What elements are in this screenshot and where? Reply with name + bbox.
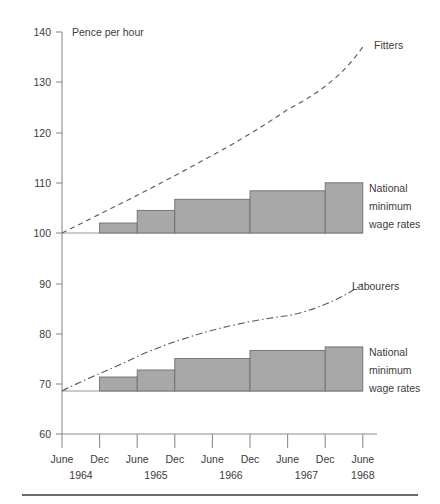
- chart-canvas: 140 130 120 110 100 90 80 70 60 Pence pe…: [0, 0, 440, 504]
- x-tick-label-june-1964: June: [51, 453, 74, 465]
- x-tick-label-dec-1967: Dec: [316, 453, 335, 465]
- lower-panel-labourers: Labourers National minimum wage rates: [62, 280, 420, 394]
- x-tick-label-june-1968: June: [351, 453, 374, 465]
- y-tick-label-90: 90: [39, 278, 51, 290]
- labourers-step-bars: [100, 347, 363, 391]
- y-tick-label-100: 100: [33, 227, 51, 239]
- fitters-step-bars: [100, 183, 363, 233]
- y-tick-label-80: 80: [39, 328, 51, 340]
- bar-fitters-2: [137, 210, 175, 233]
- fitters-bar-label-line1: National: [369, 182, 408, 194]
- bar-fitters-3: [175, 199, 250, 233]
- x-tick-label-dec-1965: Dec: [165, 453, 184, 465]
- x-year-label-1967: 1967: [295, 469, 319, 481]
- fitters-bar-label-line3: wage rates: [368, 218, 420, 230]
- bar-labourers-4: [250, 350, 325, 391]
- y-tick-label-60: 60: [39, 428, 51, 440]
- bar-fitters-1: [100, 223, 138, 233]
- x-year-label-1965: 1965: [144, 469, 168, 481]
- x-tick-label-june-1966: June: [201, 453, 224, 465]
- wage-rates-chart-figure: 140 130 120 110 100 90 80 70 60 Pence pe…: [0, 0, 440, 504]
- bar-labourers-2: [137, 370, 175, 391]
- y-tick-label-140: 140: [33, 26, 51, 38]
- y-tick-label-130: 130: [33, 76, 51, 88]
- bar-labourers-3: [175, 359, 250, 392]
- fitters-bar-label-line2: minimum: [369, 200, 412, 212]
- bar-labourers-5: [325, 347, 363, 391]
- x-tick-label-dec-1966: Dec: [241, 453, 260, 465]
- x-tick-label-june-1967: June: [276, 453, 299, 465]
- y-tick-label-70: 70: [39, 378, 51, 390]
- labourers-series-label: Labourers: [352, 280, 399, 292]
- y-tick-label-120: 120: [33, 127, 51, 139]
- bar-fitters-4: [250, 191, 325, 233]
- labourers-bar-label-line3: wage rates: [368, 382, 420, 394]
- x-tick-label-june-1965: June: [126, 453, 149, 465]
- y-tick-label-110: 110: [34, 177, 51, 189]
- labourers-bar-label-line1: National: [369, 346, 408, 358]
- x-year-label-1968: 1968: [351, 469, 375, 481]
- upper-panel-fitters: Fitters National minimum wage rates: [62, 39, 420, 233]
- bar-fitters-5: [325, 183, 363, 233]
- y-axis-unit-label: Pence per hour: [72, 26, 144, 38]
- labourers-bar-label-line2: minimum: [369, 364, 412, 376]
- fitters-series-label: Fitters: [374, 39, 403, 51]
- bar-labourers-1: [100, 377, 138, 391]
- x-tick-label-dec-1964: Dec: [90, 453, 109, 465]
- x-year-label-1966: 1966: [219, 469, 243, 481]
- x-axis: June Dec June Dec June Dec June Dec June…: [51, 434, 377, 481]
- x-year-label-1964: 1964: [69, 469, 93, 481]
